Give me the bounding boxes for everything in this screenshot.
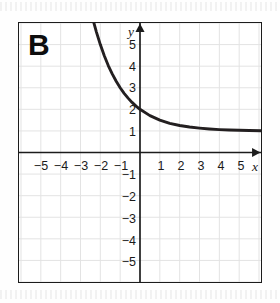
exponential-curve [19,23,261,282]
coordinate-plane: −5−4−3−2−112345−5−4−3−2−112345xy [18,22,262,283]
figure-page: −5−4−3−2−112345−5−4−3−2−112345xy B [0,0,280,303]
scan-artifact-bottom [0,290,280,299]
scan-artifact-top [0,2,280,11]
panel-label: B [28,30,50,60]
